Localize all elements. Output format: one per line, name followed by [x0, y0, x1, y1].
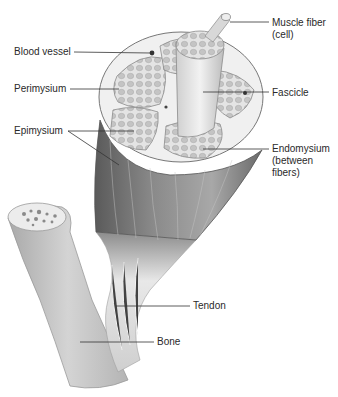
label-epimysium: Epimysium [14, 125, 63, 137]
label-muscle-fiber: Muscle fiber (cell) [272, 17, 326, 41]
blood-vessel-dot [164, 105, 167, 108]
fascicle-cross-section [110, 107, 158, 150]
label-endomysium: Endomysium (between fibers) [272, 143, 330, 179]
bone-cross-section [8, 203, 66, 231]
muscle-structure-diagram: Blood vessel Perimysium Epimysium Muscle… [0, 0, 338, 397]
label-bone: Bone [157, 336, 180, 348]
label-perimysium: Perimysium [14, 83, 66, 95]
muscle-fiber-end [222, 14, 231, 21]
tendon-shape [96, 232, 196, 372]
label-blood-vessel: Blood vessel [14, 46, 71, 58]
label-tendon: Tendon [193, 300, 226, 312]
label-fascicle: Fascicle [272, 87, 309, 99]
